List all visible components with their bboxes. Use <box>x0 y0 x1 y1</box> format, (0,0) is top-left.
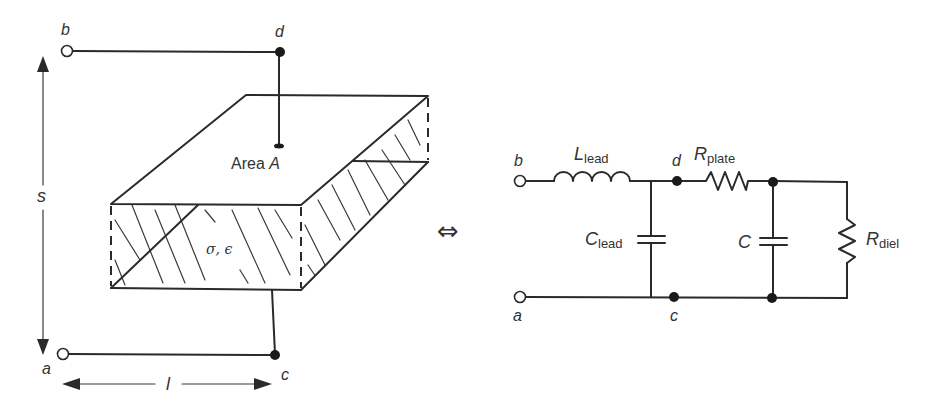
top-plate <box>111 95 428 205</box>
bottom-plate-front-edge <box>111 288 301 290</box>
node-c-label-right: c <box>670 307 678 324</box>
dielectric-hatching <box>115 205 292 285</box>
terminal-b-left <box>62 46 73 57</box>
bottom-plate-lead <box>272 290 275 354</box>
dimension-s-label: s <box>37 186 46 206</box>
terminal-a-left <box>58 349 69 360</box>
top-plate-contact <box>274 144 284 149</box>
label-r-plate: Rplate <box>694 144 735 166</box>
label-c-lead: Clead <box>585 229 623 251</box>
inductor-l-lead <box>554 172 630 181</box>
wire <box>526 297 847 298</box>
area-label: Area A <box>231 155 280 172</box>
top-lead-wire <box>72 51 279 52</box>
terminal-a-right <box>515 292 526 303</box>
dimension-s-arrow: s <box>37 56 49 355</box>
junction-bottom <box>767 293 777 303</box>
node-d-left <box>275 47 285 57</box>
terminal-a-label-left: a <box>42 360 51 377</box>
equivalent-circuit: b a d c Llead Clead Rplate C Rdiel <box>513 144 899 324</box>
label-l-lead: Llead <box>574 144 609 166</box>
node-c-label-left: c <box>281 366 289 383</box>
dielectric-label: σ, ϵ <box>206 241 232 257</box>
node-d-right <box>672 176 682 186</box>
bottom-plate-back-edge <box>353 161 428 162</box>
equivalence-arrow-icon: ⇔ <box>437 216 459 246</box>
resistor-r-diel <box>839 219 855 263</box>
capacitor-slab <box>111 95 428 290</box>
node-c-right <box>669 292 679 302</box>
bottom-lead-wire <box>68 354 275 355</box>
resistor-r-plate <box>700 172 773 190</box>
terminal-b-label-right: b <box>514 152 523 169</box>
node-d-label-right: d <box>672 152 682 169</box>
terminal-b-label-left: b <box>61 21 70 38</box>
side-hatching <box>305 120 420 280</box>
label-r-diel: Rdiel <box>866 229 899 251</box>
label-c: C <box>738 232 752 252</box>
bottom-plate-hidden-edge <box>111 205 198 288</box>
bottom-plate-side-edge <box>301 162 428 290</box>
node-d-label-left: d <box>275 23 285 40</box>
wire <box>773 181 847 182</box>
node-c-left <box>270 350 280 360</box>
dimension-l-arrow: l <box>62 374 272 394</box>
terminal-a-label-right: a <box>513 307 522 324</box>
junction-top <box>768 177 778 187</box>
capacitor-diagram: s l b d a c <box>0 0 944 410</box>
dimension-l-label: l <box>166 374 171 394</box>
physical-capacitor: s l b d a c <box>37 21 428 394</box>
terminal-b-right <box>515 176 526 187</box>
